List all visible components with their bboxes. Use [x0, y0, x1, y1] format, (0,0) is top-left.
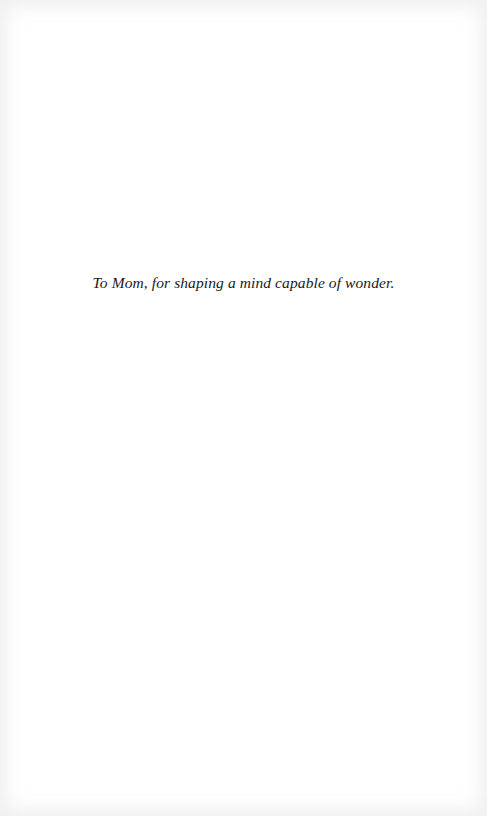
dedication-text: To Mom, for shaping a mind capable of wo… [0, 274, 487, 292]
book-page: To Mom, for shaping a mind capable of wo… [0, 0, 487, 816]
